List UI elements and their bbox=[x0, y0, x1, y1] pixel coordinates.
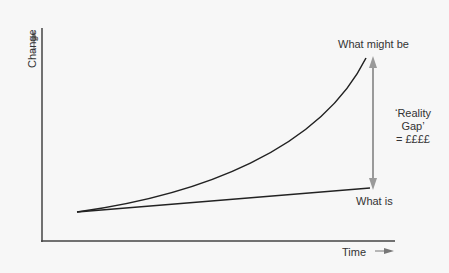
reality-gap-line1: ‘Reality bbox=[388, 107, 438, 120]
reality-gap-arrow-top-icon bbox=[369, 56, 377, 68]
label-what-might-be: What might be bbox=[338, 38, 409, 50]
x-axis-arrow-icon bbox=[384, 248, 394, 254]
reality-gap-line2: Gap’ bbox=[388, 120, 438, 133]
label-what-is: What is bbox=[356, 195, 393, 207]
x-axis-label: Time bbox=[342, 246, 366, 258]
y-axis-label: Change bbox=[26, 29, 38, 68]
reality-gap-line3: = ££££ bbox=[388, 133, 438, 146]
reality-gap-arrow-bottom-icon bbox=[369, 178, 377, 190]
line-what-is bbox=[77, 188, 370, 212]
curve-what-might-be bbox=[77, 58, 366, 212]
reality-gap-label: ‘Reality Gap’ = ££££ bbox=[388, 107, 438, 146]
